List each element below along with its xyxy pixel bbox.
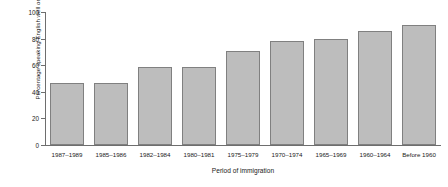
x-tick-label: 1985–1986	[96, 151, 127, 158]
x-tick-label: 1982–1984	[140, 151, 171, 158]
plot-area: 020406080100 1987–19891985–19861982–1984…	[45, 12, 441, 145]
bar	[50, 83, 84, 146]
y-tick-label: 80	[32, 35, 39, 42]
x-tick-label: 1965–1969	[316, 151, 347, 158]
y-axis-line	[45, 12, 46, 145]
x-axis-line	[45, 145, 441, 146]
y-tick-label: 100	[28, 9, 39, 16]
y-tick-label: 40	[32, 88, 39, 95]
bar	[358, 31, 392, 145]
x-tick-label: 1960–1964	[360, 151, 391, 158]
x-tick-label: 1987–1989	[52, 151, 83, 158]
x-axis-title: Period of immigration	[45, 167, 441, 174]
y-tick-mark	[41, 12, 45, 13]
bar	[314, 39, 348, 145]
y-axis-title: Percentage speaking English well or very…	[34, 0, 41, 117]
y-tick-label: 20	[32, 115, 39, 122]
bar-chart-figure: Percentage speaking English well or very…	[0, 0, 448, 187]
x-tick-label: 1980–1981	[184, 151, 215, 158]
y-tick-mark	[41, 92, 45, 93]
y-tick-mark	[41, 145, 45, 146]
bar	[226, 51, 260, 145]
bar	[138, 67, 172, 145]
bar	[402, 25, 436, 145]
bar	[270, 41, 304, 145]
bar	[94, 83, 128, 146]
bar	[182, 67, 216, 145]
y-tick-label: 0	[35, 142, 39, 149]
y-tick-label: 60	[32, 62, 39, 69]
x-tick-label: 1970–1974	[272, 151, 303, 158]
x-tick-label: Before 1960	[402, 151, 436, 158]
y-tick-mark	[41, 39, 45, 40]
y-tick-mark	[41, 65, 45, 66]
x-tick-label: 1975–1979	[228, 151, 259, 158]
y-tick-mark	[41, 118, 45, 119]
